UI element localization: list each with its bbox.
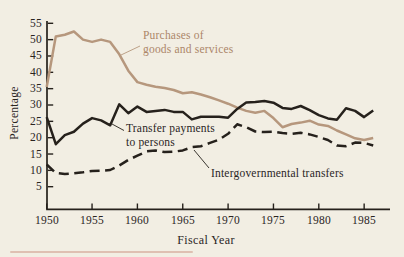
- decorative-rule: [10, 251, 193, 253]
- y-tick-label-20: 20: [14, 131, 42, 144]
- x-tick-label-1975: 1975: [255, 214, 291, 227]
- x-tick-label-1985: 1985: [346, 214, 382, 227]
- x-tick-label-1955: 1955: [74, 214, 110, 227]
- purchases-series-label-line2: goods and services: [143, 43, 233, 57]
- y-tick-label-15: 15: [14, 148, 42, 161]
- y-tick-label-55: 55: [14, 17, 42, 30]
- x-tick-label-1980: 1980: [301, 214, 337, 227]
- transfer-payments-series-label: Transfer payments to persons: [126, 122, 215, 149]
- y-tick-label-45: 45: [14, 49, 42, 62]
- y-tick-label-10: 10: [14, 164, 42, 177]
- y-tick-label-30: 30: [14, 98, 42, 111]
- x-tick-label-1965: 1965: [165, 214, 201, 227]
- x-axis-title: Fiscal Year: [156, 233, 256, 247]
- purchases-series-label: Purchases of goods and services: [143, 29, 233, 56]
- y-tick-label-5: 5: [14, 180, 42, 193]
- intergovernmental-leader-line: [194, 150, 209, 168]
- x-tick-label-1970: 1970: [210, 214, 246, 227]
- transfer-payments-series-label-line1: Transfer payments: [126, 122, 215, 136]
- y-tick-label-35: 35: [14, 82, 42, 95]
- x-tick-label-1960: 1960: [119, 214, 155, 227]
- y-tick-label-40: 40: [14, 66, 42, 79]
- y-tick-label-25: 25: [14, 115, 42, 128]
- figure-stage: Percentage Fiscal Year 55 50 45 40 35 30…: [0, 0, 404, 257]
- x-tick-label-1950: 1950: [29, 214, 65, 227]
- purchases-series-label-line1: Purchases of: [143, 29, 233, 43]
- transfer-payments-leader-line: [112, 124, 124, 131]
- purchases-leader-line: [121, 46, 140, 55]
- intergovernmental-series-label: Intergovernmental transfers: [211, 167, 344, 181]
- y-tick-label-50: 50: [14, 33, 42, 46]
- transfer-payments-series-label-line2: to persons: [126, 136, 215, 150]
